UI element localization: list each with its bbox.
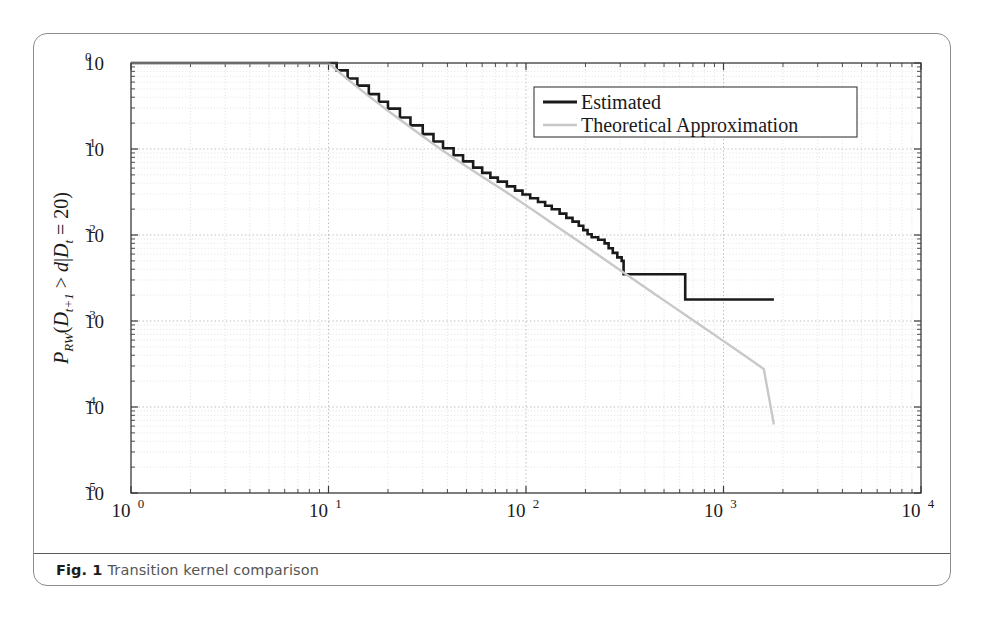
figure-card: 10010110210310410010-110-210-310-410-5De… — [33, 33, 951, 586]
ytick-label-0-exponent: 0 — [85, 49, 92, 64]
ytick-label-3-exponent: -3 — [85, 307, 96, 322]
xtick-label-2-exponent: 2 — [533, 496, 540, 511]
xtick-label-3-base: 10 — [704, 500, 723, 521]
ytick-label-2-exponent: -2 — [85, 221, 96, 236]
ytick-label-5-exponent: -5 — [85, 479, 96, 494]
ytick-label-0: 100 — [85, 49, 104, 74]
ytick-label-1-exponent: -1 — [85, 135, 96, 150]
figure-caption: Fig. 1Transition kernel comparison — [56, 562, 926, 578]
ytick-label-2: 10-2 — [85, 221, 104, 246]
ytick-label-4-exponent: -4 — [85, 393, 96, 408]
xtick-label-4-exponent: 4 — [928, 496, 935, 511]
chart-legend: EstimatedTheoretical Approximation — [534, 87, 857, 137]
legend-label-0: Estimated — [581, 91, 661, 113]
xtick-label-1-exponent: 1 — [335, 496, 342, 511]
legend-label-1: Theoretical Approximation — [581, 114, 798, 137]
ytick-label-5: 10-5 — [85, 479, 104, 504]
ytick-label-4: 10-4 — [85, 393, 104, 418]
y-axis-title: PRW(Dt+1 > d|Dt = 20) — [50, 192, 76, 365]
ytick-label-1: 10-1 — [85, 135, 104, 160]
xtick-label-1-base: 10 — [309, 500, 328, 521]
xtick-label-4-base: 10 — [902, 500, 921, 521]
xtick-label-1: 101 — [309, 496, 342, 521]
xtick-label-2: 102 — [507, 496, 540, 521]
xtick-label-0-exponent: 0 — [138, 496, 145, 511]
ytick-label-3: 10-3 — [85, 307, 104, 332]
caption-divider — [34, 553, 950, 554]
plot-area: 10010110210310410010-110-210-310-410-5De… — [34, 34, 952, 526]
xtick-label-3-exponent: 3 — [730, 496, 737, 511]
xtick-label-0: 100 — [112, 496, 145, 521]
xtick-label-3: 103 — [704, 496, 737, 521]
xtick-label-4: 104 — [902, 496, 935, 521]
xtick-label-2-base: 10 — [507, 500, 526, 521]
xtick-label-0-base: 10 — [112, 500, 131, 521]
y-axis-title-text: PRW(Dt+1 > d|Dt = 20) — [50, 192, 76, 365]
caption-label: Fig. 1 — [56, 562, 103, 578]
chart-svg: 10010110210310410010-110-210-310-410-5De… — [34, 34, 952, 526]
caption-text: Transition kernel comparison — [108, 562, 319, 578]
